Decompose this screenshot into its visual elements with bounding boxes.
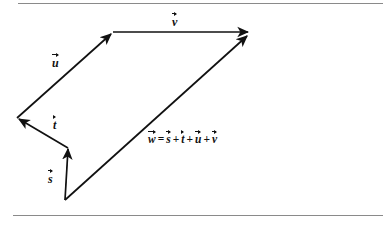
equation-term-v-glyph: v [212, 131, 217, 146]
equation-term-s-glyph: s [166, 131, 170, 146]
equation-plus-sign-1: + [171, 133, 182, 145]
resultant-equation: w=s+t+u+v [148, 131, 217, 146]
vector-label-s-glyph: s [48, 170, 53, 185]
vector-label-v-glyph: v [172, 13, 177, 28]
vector-label-u: u [52, 54, 59, 69]
vector-label-t-glyph: t [53, 116, 56, 131]
vector-canvas [0, 0, 383, 228]
equation-plus-sign-3: + [201, 133, 212, 145]
equation-equals-sign: = [156, 133, 167, 145]
vector-t-line [19, 119, 68, 148]
equation-lhs-w-glyph: w [148, 131, 156, 146]
equation-term-t-glyph: t [181, 131, 184, 146]
vector-diagram-figure: v u t s w=s+t+u+v [0, 0, 383, 228]
vector-s-line [65, 149, 68, 200]
vector-label-u-glyph: u [52, 54, 59, 69]
vector-w-line [65, 36, 247, 200]
equation-term-u-glyph: u [195, 131, 201, 146]
vector-label-v: v [172, 13, 177, 28]
vector-u-line [17, 34, 111, 118]
vector-label-s: s [48, 170, 53, 185]
equation-plus-sign-2: + [184, 133, 195, 145]
vector-label-t: t [53, 116, 56, 131]
